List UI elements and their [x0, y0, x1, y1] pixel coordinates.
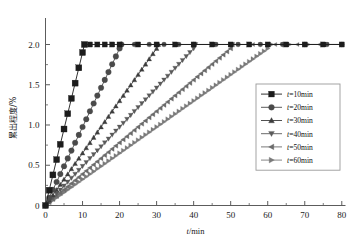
y-axis-title: 累出程度/% — [8, 96, 18, 139]
data-point-marker — [95, 93, 101, 99]
data-point-marker — [302, 42, 307, 47]
legend-label: t=50min — [287, 143, 313, 152]
data-point-marker — [284, 42, 289, 47]
x-axis-title: t/min — [187, 226, 206, 236]
y-tick-label: 0.5 — [28, 160, 40, 170]
legend-label: t=60min — [287, 156, 313, 165]
data-point-marker — [50, 172, 56, 178]
data-point-marker — [228, 42, 233, 47]
x-tick-label: 40 — [189, 210, 199, 220]
data-point-marker — [191, 42, 196, 47]
data-point-marker — [61, 163, 67, 169]
y-tick-label: 1.5 — [28, 80, 40, 90]
data-point-marker — [46, 187, 52, 193]
y-tick-label: 2.0 — [28, 40, 40, 50]
legend-label: t=20min — [287, 103, 313, 112]
x-tick-label: 60 — [263, 210, 273, 220]
chart-legend: t=10mint=20mint=30mint=40mint=50mint=60m… — [256, 84, 340, 170]
data-point-marker — [321, 42, 326, 47]
legend-marker-circle-icon — [269, 104, 275, 110]
data-point-marker — [76, 132, 82, 138]
chart-figure: 0102030405060708000.51.01.52.0t/min累出程度/… — [0, 0, 357, 240]
data-point-marker — [76, 65, 82, 71]
data-point-marker — [154, 42, 159, 47]
data-point-marker — [61, 126, 67, 132]
legend-marker-square-icon — [269, 91, 275, 97]
data-point-marker — [68, 95, 74, 101]
data-point-marker — [69, 148, 75, 154]
data-point-marker — [57, 141, 63, 147]
data-point-marker — [54, 179, 60, 185]
x-tick-label: 0 — [43, 210, 48, 220]
x-tick-label: 10 — [78, 210, 88, 220]
y-tick-label: 1.0 — [28, 120, 40, 130]
data-point-marker — [91, 101, 97, 107]
data-point-marker — [54, 157, 60, 163]
data-point-marker — [210, 42, 215, 47]
data-point-marker — [87, 109, 93, 115]
data-point-marker — [83, 116, 89, 122]
data-point-marker — [98, 85, 104, 91]
data-point-marker — [102, 77, 108, 83]
data-point-marker — [80, 124, 86, 130]
data-point-marker — [65, 156, 71, 162]
data-point-marker — [87, 42, 92, 47]
data-point-marker — [81, 41, 87, 47]
data-point-marker — [43, 203, 49, 209]
data-point-marker — [339, 42, 344, 47]
legend-label: t=40min — [287, 130, 313, 139]
x-tick-label: 20 — [115, 210, 125, 220]
data-point-marker — [72, 80, 78, 86]
y-tick-label: 0 — [35, 201, 40, 211]
legend-label: t=30min — [287, 116, 313, 125]
data-point-marker — [95, 42, 100, 47]
data-point-marker — [247, 42, 252, 47]
data-point-marker — [106, 69, 112, 75]
x-tick-label: 30 — [152, 210, 162, 220]
data-point-marker — [65, 111, 71, 117]
legend-label: t=10min — [287, 90, 313, 99]
data-point-marker — [113, 54, 119, 60]
data-point-marker — [58, 171, 64, 177]
data-point-marker — [80, 50, 86, 56]
data-point-marker — [110, 42, 115, 47]
data-point-marker — [117, 42, 122, 47]
data-point-marker — [136, 42, 141, 47]
x-tick-label: 70 — [300, 210, 310, 220]
x-tick-label: 80 — [337, 210, 347, 220]
data-point-marker — [102, 42, 107, 47]
data-point-marker — [109, 61, 115, 67]
data-point-marker — [72, 140, 78, 146]
chart-plot-area: 0102030405060708000.51.01.52.0t/min累出程度/… — [0, 0, 357, 240]
x-tick-label: 50 — [226, 210, 236, 220]
data-point-marker — [173, 42, 178, 47]
data-point-marker — [265, 42, 270, 47]
